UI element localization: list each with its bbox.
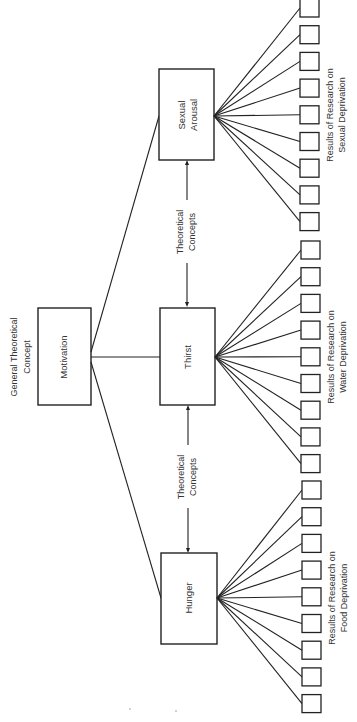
result-connector-line — [217, 517, 302, 598]
result-connector-line — [214, 8, 300, 116]
result-box — [300, 159, 319, 177]
result-box — [301, 294, 320, 312]
result-connector-line — [214, 116, 300, 142]
result-box — [300, 52, 319, 70]
theoretical-concepts-lower-line2: Concepts — [188, 457, 198, 496]
result-connector-line — [214, 116, 300, 168]
result-connector-line — [215, 357, 301, 384]
result-box — [301, 348, 320, 366]
result-connector-line — [217, 598, 302, 624]
scan-speck — [129, 708, 131, 710]
result-connector-line — [217, 543, 302, 598]
thirst-label: Thirst — [182, 345, 193, 369]
sexual-arousal-label-line1: Sexual — [176, 100, 187, 129]
result-connector-line — [217, 490, 302, 598]
result-box — [302, 508, 321, 526]
results-caption-sexual-line2: Sexual Deprivation — [337, 77, 347, 153]
result-connector-line — [214, 35, 300, 116]
result-connector-line — [215, 277, 301, 357]
result-connector-line — [214, 61, 300, 116]
result-connector-line — [217, 597, 302, 598]
root-caption-line1: General Theoretical — [9, 318, 19, 397]
result-connector-line — [214, 88, 300, 116]
result-connector-line — [215, 357, 301, 410]
sexual-arousal-node: Sexual Arousal — [159, 69, 214, 160]
results-caption-sexual-line1: Results of Research on — [325, 68, 335, 162]
result-box — [302, 481, 321, 499]
sexual-arousal-label-line2: Arousal — [188, 99, 199, 131]
result-connector-line — [217, 598, 302, 704]
result-box — [301, 401, 320, 419]
result-box — [300, 106, 319, 124]
result-box — [300, 0, 319, 17]
result-box — [300, 133, 319, 151]
results-group-sexual-deprivation — [214, 0, 319, 231]
result-box — [300, 79, 319, 97]
result-box — [301, 321, 320, 339]
result-connector-line — [215, 357, 301, 464]
result-connector-line — [214, 116, 300, 222]
hunger-node: Hunger — [161, 553, 217, 644]
result-box — [300, 26, 319, 44]
motivation-label: Motivation — [58, 335, 69, 378]
theoretical-concepts-lower-line1: Theoretical — [176, 455, 186, 500]
results-caption-hunger-line1: Results of Research on — [327, 551, 337, 645]
result-connector-line — [215, 303, 301, 357]
result-connector-line — [217, 570, 302, 598]
theoretical-concepts-upper-line2: Concepts — [187, 212, 197, 251]
theoretical-concepts-upper-line1: Theoretical — [175, 210, 185, 255]
results-group-water-deprivation — [215, 241, 320, 473]
result-connector-line — [214, 116, 300, 195]
root-connectors — [91, 116, 161, 598]
result-box — [302, 561, 321, 579]
result-box — [300, 186, 319, 204]
results-caption-thirst-line2: Water Deprivation — [338, 321, 348, 393]
motivation-concept-diagram: General Theoretical Concept Motivation S… — [0, 0, 357, 722]
result-connector-line — [215, 250, 301, 357]
hunger-label: Hunger — [183, 582, 194, 613]
result-connector-line — [217, 598, 302, 650]
root-caption-line2: Concept — [22, 340, 32, 374]
result-connector-line — [215, 357, 301, 437]
result-box — [302, 695, 321, 713]
result-box — [301, 375, 320, 393]
results-caption-hunger-line2: Food Deprivation — [339, 564, 349, 633]
result-connector-line — [217, 598, 302, 677]
result-box — [301, 241, 320, 259]
results-group-food-deprivation — [217, 481, 321, 713]
result-connector-line — [215, 330, 301, 357]
result-box — [301, 268, 320, 286]
theoretical-concepts-connector-lower: Theoretical Concepts — [176, 405, 198, 553]
root-caption: General Theoretical Concept — [9, 318, 32, 397]
result-box — [302, 641, 321, 659]
results-caption-thirst-line1: Results of Research on — [326, 310, 336, 404]
thirst-node: Thirst — [160, 308, 215, 405]
results-caption-thirst: Results of Research on Water Deprivation — [326, 310, 348, 404]
result-box — [301, 455, 320, 473]
scan-speck — [175, 710, 177, 712]
results-caption-hunger: Results of Research on Food Deprivation — [327, 551, 349, 645]
theoretical-concepts-connector-upper: Theoretical Concepts — [175, 160, 197, 307]
result-box — [302, 668, 321, 686]
result-box — [302, 615, 321, 633]
result-connector-line — [214, 115, 300, 116]
result-box — [302, 534, 321, 552]
results-caption-sexual: Results of Research on Sexual Deprivatio… — [325, 68, 347, 162]
result-box — [301, 428, 320, 446]
result-box — [300, 213, 319, 231]
result-box — [302, 588, 321, 606]
motivation-node: Motivation — [38, 308, 91, 405]
